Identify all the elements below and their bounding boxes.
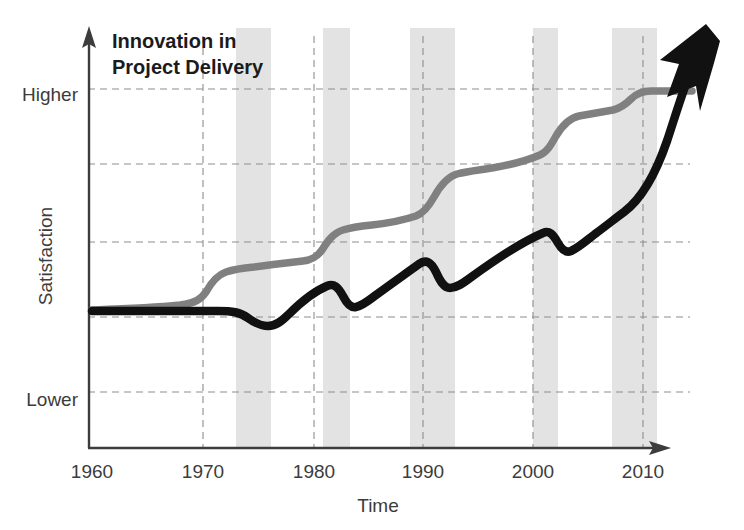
chart-title-line1: Innovation in bbox=[112, 30, 236, 52]
y-axis-high-label: Higher bbox=[22, 84, 79, 105]
horizontal-gridlines-group bbox=[88, 89, 690, 392]
chart-canvas: Innovation in Project Delivery Higher Lo… bbox=[0, 0, 744, 530]
x-tick-label: 1990 bbox=[402, 461, 444, 482]
chart-title-line2: Project Delivery bbox=[112, 56, 264, 78]
x-tick-label: 2000 bbox=[512, 461, 554, 482]
shaded-band bbox=[410, 28, 455, 448]
x-tick-label: 2010 bbox=[622, 461, 664, 482]
series-line-satisfaction bbox=[92, 84, 686, 326]
x-axis-title: Time bbox=[357, 495, 399, 516]
x-tick-label: 1960 bbox=[71, 461, 113, 482]
y-axis-title: Satisfaction bbox=[35, 207, 56, 305]
x-axis bbox=[88, 441, 671, 455]
x-tick-label: 1970 bbox=[182, 461, 224, 482]
x-tick-label: 1980 bbox=[293, 461, 335, 482]
series-line-innovation bbox=[92, 91, 692, 310]
satisfaction-arrow-icon bbox=[660, 24, 720, 111]
shaded-band bbox=[236, 28, 271, 448]
y-axis-low-label: Lower bbox=[26, 389, 78, 410]
chart-container: Innovation in Project Delivery Higher Lo… bbox=[0, 0, 744, 530]
